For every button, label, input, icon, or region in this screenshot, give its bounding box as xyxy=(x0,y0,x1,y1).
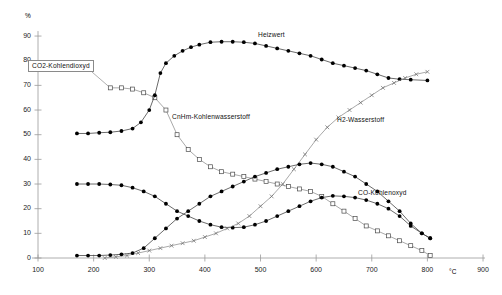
data-point-marker xyxy=(119,86,123,90)
data-point-marker xyxy=(275,182,279,186)
data-point-marker xyxy=(331,194,335,198)
data-point-marker xyxy=(186,147,190,151)
data-point-marker xyxy=(325,125,329,129)
data-point-marker xyxy=(331,61,335,65)
y-axis-tick-label: 60 xyxy=(17,106,31,113)
data-point-marker xyxy=(142,190,146,194)
data-point-marker xyxy=(428,236,432,240)
y-axis-tick-label: 10 xyxy=(17,229,31,236)
data-point-marker xyxy=(75,254,79,258)
data-point-marker xyxy=(231,40,235,44)
y-axis-tick-label: 50 xyxy=(17,130,31,137)
data-point-marker xyxy=(386,234,390,238)
data-point-marker xyxy=(158,71,162,75)
data-point-marker xyxy=(242,180,246,184)
data-point-marker xyxy=(75,132,79,136)
data-point-marker xyxy=(409,244,413,248)
axis-layer xyxy=(32,31,485,261)
data-point-marker xyxy=(97,182,101,186)
data-point-marker xyxy=(147,108,151,112)
data-point-marker xyxy=(409,222,413,226)
data-point-marker xyxy=(142,246,146,250)
data-point-marker xyxy=(120,252,124,256)
data-point-marker xyxy=(387,76,391,80)
data-point-marker xyxy=(197,202,201,206)
data-point-marker xyxy=(314,138,318,142)
data-point-marker xyxy=(387,199,391,203)
y-axis-tick-label: 20 xyxy=(17,204,31,211)
data-point-marker xyxy=(97,254,101,258)
data-point-marker xyxy=(253,42,257,46)
data-point-marker xyxy=(320,162,324,166)
data-point-marker xyxy=(275,214,279,218)
data-point-marker xyxy=(209,223,213,227)
data-point-marker xyxy=(286,209,290,213)
data-point-marker xyxy=(320,196,324,200)
data-point-marker xyxy=(108,86,112,90)
data-point-marker xyxy=(164,61,168,65)
data-point-marker xyxy=(153,194,157,198)
data-point-marker xyxy=(309,161,313,165)
data-point-marker xyxy=(342,64,346,68)
data-point-marker xyxy=(426,79,430,83)
chart-container: % °C 9080706050403020100 100200300400500… xyxy=(0,0,502,295)
data-point-marker xyxy=(108,253,112,257)
data-point-marker xyxy=(220,40,224,44)
data-point-marker xyxy=(392,81,396,85)
data-point-marker xyxy=(164,202,168,206)
data-point-marker xyxy=(353,217,357,221)
x-axis-tick-label: 100 xyxy=(27,266,49,273)
data-point-marker xyxy=(189,45,193,49)
data-point-marker xyxy=(172,54,176,58)
y-axis-tick-label: 70 xyxy=(17,81,31,88)
label-leader-line xyxy=(92,72,110,88)
data-point-marker xyxy=(398,209,402,213)
data-point-marker xyxy=(131,251,135,255)
data-point-marker xyxy=(209,194,213,198)
data-point-marker xyxy=(153,236,157,240)
data-point-marker xyxy=(139,120,143,124)
data-point-marker xyxy=(108,130,112,134)
data-point-marker xyxy=(364,69,368,73)
y-axis-unit-label: % xyxy=(25,12,31,19)
data-point-marker xyxy=(242,225,246,229)
data-point-marker xyxy=(203,235,207,239)
data-point-marker xyxy=(253,223,257,227)
y-axis-tick-label: 90 xyxy=(17,32,31,39)
data-point-marker xyxy=(420,231,424,235)
data-point-marker xyxy=(131,127,135,131)
data-point-marker xyxy=(220,225,224,229)
data-point-marker xyxy=(175,133,179,137)
series-layer xyxy=(75,40,432,260)
plot-area xyxy=(0,0,502,295)
data-point-marker xyxy=(197,219,201,223)
data-point-marker xyxy=(353,196,357,200)
data-point-marker xyxy=(381,86,385,90)
data-point-marker xyxy=(298,162,302,166)
data-point-marker xyxy=(253,175,257,179)
data-point-marker xyxy=(420,249,424,253)
data-point-marker xyxy=(286,184,290,188)
data-point-marker xyxy=(353,175,357,179)
data-point-marker xyxy=(153,93,157,97)
data-point-marker xyxy=(303,153,307,157)
data-point-marker xyxy=(186,214,190,218)
data-point-marker xyxy=(364,198,368,202)
data-point-marker xyxy=(375,229,379,233)
x-axis-tick-label: 700 xyxy=(361,266,383,273)
data-point-marker xyxy=(309,199,313,203)
data-point-marker xyxy=(342,194,346,198)
data-point-marker xyxy=(209,40,213,44)
data-point-marker xyxy=(370,93,374,97)
data-point-marker xyxy=(275,167,279,171)
data-point-marker xyxy=(331,202,335,206)
data-point-marker xyxy=(108,183,112,187)
data-point-marker xyxy=(286,49,290,53)
data-point-marker xyxy=(186,209,190,213)
data-point-marker xyxy=(398,214,402,218)
data-point-marker xyxy=(214,231,218,235)
data-point-marker xyxy=(298,204,302,208)
data-point-marker xyxy=(259,204,263,208)
data-point-marker xyxy=(164,108,168,112)
data-point-marker xyxy=(375,72,379,76)
